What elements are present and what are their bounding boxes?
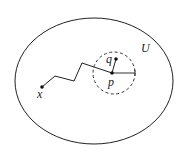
label-u: U <box>141 41 151 55</box>
segment-p-q <box>112 59 116 73</box>
point-q <box>114 57 118 61</box>
label-p: p <box>107 75 114 89</box>
label-q: q <box>106 52 112 66</box>
path-x-to-p <box>42 63 112 87</box>
region-u-boundary <box>15 18 173 144</box>
diagram-canvas: x p q U <box>0 0 187 158</box>
label-x: x <box>36 87 43 101</box>
